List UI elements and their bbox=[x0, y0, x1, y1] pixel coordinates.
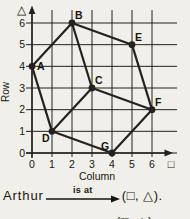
x-axis-arrowhead bbox=[165, 150, 174, 157]
data-point bbox=[109, 150, 116, 157]
caption-relation-label: is at bbox=[73, 186, 93, 195]
edge-line bbox=[72, 23, 92, 88]
point-label: C bbox=[95, 74, 103, 86]
edge-line bbox=[32, 66, 52, 131]
x-tick-label: 0 bbox=[29, 158, 35, 170]
caption-object: (□, △). bbox=[122, 188, 163, 203]
y-tick-label: 6 bbox=[19, 17, 25, 29]
x-axis-title: Column bbox=[79, 170, 115, 182]
y-tick-label: 4 bbox=[19, 60, 25, 72]
edge-line bbox=[72, 23, 132, 45]
x-tick-label: 5 bbox=[129, 158, 135, 170]
coordinate-grid-chart: 01234560123456△□RowColumnABCDEFG bbox=[0, 0, 190, 186]
y-tick-label: 3 bbox=[19, 82, 25, 94]
caption-subject: Arthur bbox=[3, 188, 44, 203]
arrow-right-icon bbox=[46, 195, 120, 203]
is-at-arrow: is at bbox=[46, 186, 120, 203]
y-tick-label: 5 bbox=[19, 38, 25, 50]
edge-line bbox=[92, 88, 152, 110]
y-axis-title: Row bbox=[0, 81, 11, 102]
x-tick-label: 6 bbox=[149, 158, 155, 170]
edge-line bbox=[132, 45, 152, 110]
cropped-next-line: (□, △). bbox=[116, 214, 157, 219]
point-label: D bbox=[42, 132, 50, 144]
column-unit-square-icon: □ bbox=[168, 158, 175, 170]
point-label: G bbox=[101, 140, 109, 152]
caption-row: Arthur is at (□, △). bbox=[0, 187, 190, 204]
point-label: F bbox=[155, 96, 162, 108]
x-tick-label: 2 bbox=[69, 158, 75, 170]
y-tick-label: 0 bbox=[19, 147, 25, 159]
data-point bbox=[49, 128, 56, 135]
x-tick-label: 3 bbox=[89, 158, 95, 170]
point-label: A bbox=[37, 60, 45, 72]
row-unit-triangle-icon: △ bbox=[17, 3, 27, 17]
point-label: E bbox=[135, 31, 142, 43]
point-label: B bbox=[75, 9, 83, 21]
x-tick-label: 4 bbox=[109, 158, 115, 170]
worksheet-figure: 01234560123456△□RowColumnABCDEFG Arthur … bbox=[0, 0, 190, 219]
y-axis-arrowhead bbox=[29, 6, 36, 15]
y-tick-label: 1 bbox=[19, 125, 25, 137]
y-tick-label: 2 bbox=[19, 103, 25, 115]
x-tick-label: 1 bbox=[49, 158, 55, 170]
data-point bbox=[29, 63, 36, 70]
